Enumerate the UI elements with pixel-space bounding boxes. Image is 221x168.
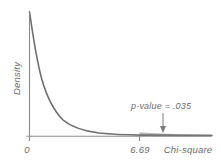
density-curve bbox=[30, 12, 213, 136]
x-axis-title: Chi-square bbox=[164, 144, 212, 155]
x-tick-label-critical: 6.69 bbox=[130, 144, 150, 155]
p-value-annotation-remainder: -value = .035 bbox=[136, 101, 192, 111]
y-axis-title: Density bbox=[11, 61, 22, 95]
chi-square-density-chart: Density 0 6.69 Chi-square p-value = .035 bbox=[0, 0, 221, 168]
chart-canvas: Density 0 6.69 Chi-square p-value = .035 bbox=[0, 0, 221, 168]
p-value-arrow-head bbox=[160, 126, 166, 133]
x-tick-label-zero: 0 bbox=[24, 144, 30, 155]
p-value-annotation-label: p-value = .035 bbox=[130, 101, 192, 111]
